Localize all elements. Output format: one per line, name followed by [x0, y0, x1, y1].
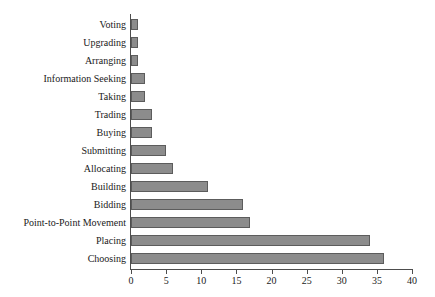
bar — [131, 217, 250, 228]
plot-area — [131, 16, 412, 268]
x-tick-label: 35 — [372, 275, 382, 286]
x-tick-mark — [307, 270, 308, 274]
x-tick-mark — [272, 270, 273, 274]
category-label: Voting — [0, 16, 126, 34]
bar-row — [131, 124, 412, 142]
x-tick-mark — [342, 270, 343, 274]
bar-row — [131, 142, 412, 160]
bar — [131, 199, 243, 210]
x-tick-label: 30 — [337, 275, 347, 286]
category-label: Information Seeking — [0, 70, 126, 88]
category-axis-labels: VotingUpgradingArrangingInformation Seek… — [0, 16, 126, 268]
x-tick-label: 10 — [196, 275, 206, 286]
category-label: Allocating — [0, 160, 126, 178]
x-tick-label: 5 — [164, 275, 169, 286]
bar — [131, 91, 145, 102]
category-label: Taking — [0, 88, 126, 106]
category-label: Bidding — [0, 196, 126, 214]
bar-row — [131, 214, 412, 232]
bar — [131, 37, 138, 48]
bar-row — [131, 16, 412, 34]
x-tick-label: 25 — [302, 275, 312, 286]
x-tick-mark — [131, 270, 132, 274]
x-tick-mark — [201, 270, 202, 274]
x-tick-label: 40 — [407, 275, 417, 286]
category-label: Building — [0, 178, 126, 196]
bar — [131, 127, 152, 138]
bar-row — [131, 88, 412, 106]
bar — [131, 181, 208, 192]
x-tick-label: 0 — [129, 275, 134, 286]
bar-row — [131, 178, 412, 196]
x-axis-ticks: 0510152025303540 — [131, 270, 412, 292]
bar — [131, 109, 152, 120]
bar-row — [131, 196, 412, 214]
bar-row — [131, 52, 412, 70]
x-tick-mark — [166, 270, 167, 274]
category-label: Placing — [0, 232, 126, 250]
x-tick-mark — [236, 270, 237, 274]
category-label: Submitting — [0, 142, 126, 160]
x-tick-label: 20 — [267, 275, 277, 286]
bar — [131, 163, 173, 174]
category-label: Upgrading — [0, 34, 126, 52]
bar — [131, 73, 145, 84]
bar-row — [131, 70, 412, 88]
x-tick-mark — [377, 270, 378, 274]
x-tick-label: 15 — [231, 275, 241, 286]
category-label: Point-to-Point Movement — [0, 214, 126, 232]
bar-row — [131, 160, 412, 178]
bar — [131, 55, 138, 66]
bar — [131, 235, 370, 246]
bar-row — [131, 250, 412, 268]
category-label: Arranging — [0, 52, 126, 70]
bar-row — [131, 232, 412, 250]
bar — [131, 253, 384, 264]
bar — [131, 19, 138, 30]
x-tick-mark — [412, 270, 413, 274]
category-label: Buying — [0, 124, 126, 142]
bar-rows — [131, 16, 412, 268]
bar-chart: VotingUpgradingArrangingInformation Seek… — [0, 0, 435, 297]
category-label: Choosing — [0, 250, 126, 268]
category-label: Trading — [0, 106, 126, 124]
bar-row — [131, 34, 412, 52]
bar — [131, 145, 166, 156]
bar-row — [131, 106, 412, 124]
